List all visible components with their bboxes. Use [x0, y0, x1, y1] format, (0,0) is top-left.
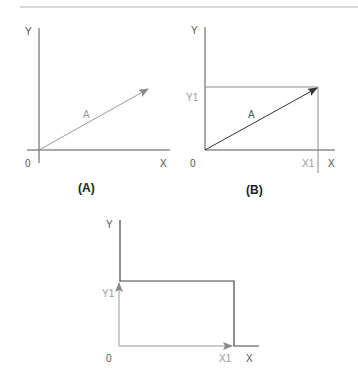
diagram-b-caption: (B)	[246, 183, 263, 197]
diagram-c-x-label: X	[246, 353, 253, 364]
diagram-b-vector-label: A	[248, 109, 255, 120]
diagram-b-x-label: X	[328, 158, 335, 169]
diagram-b-origin-label: 0	[190, 158, 196, 169]
diagram-c: Y X 0 Y1 X1	[102, 219, 259, 364]
diagram-a: Y X 0 A (A)	[25, 26, 170, 195]
diagram-b-y1-label: Y1	[186, 92, 199, 103]
diagram-c-origin-label: 0	[106, 353, 112, 364]
diagram-c-path	[120, 220, 259, 346]
diagram-b-vector-arrow	[205, 88, 317, 150]
diagram-c-y1-label: Y1	[102, 288, 115, 299]
diagram-b-y-label: Y	[191, 25, 198, 36]
diagram-a-origin-label: 0	[25, 158, 31, 169]
diagram-a-x-label: X	[160, 158, 167, 169]
vector-components-figure: Y X 0 A (A) Y X 0 A Y1 X1 (B) Y X 0 Y1 X…	[0, 0, 358, 373]
diagram-b: Y X 0 A Y1 X1 (B)	[186, 25, 335, 197]
diagram-c-y-label: Y	[106, 219, 113, 230]
diagram-b-x1-label: X1	[302, 158, 315, 169]
diagram-a-vector-arrow	[39, 89, 148, 150]
diagram-a-vector-label: A	[83, 109, 90, 120]
diagram-a-y-label: Y	[25, 26, 32, 37]
diagram-a-caption: (A)	[78, 181, 95, 195]
diagram-c-x1-label: X1	[219, 353, 232, 364]
